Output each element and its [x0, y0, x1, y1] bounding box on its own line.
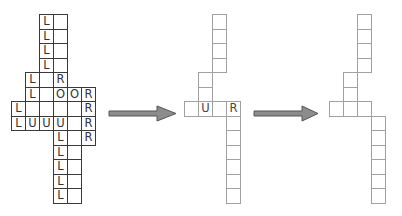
arrow-2-icon: [254, 106, 318, 121]
arrow-1-icon: [109, 106, 176, 121]
transformation-arrows: [0, 0, 402, 216]
